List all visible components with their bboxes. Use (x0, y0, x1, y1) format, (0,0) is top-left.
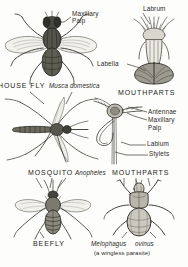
label-house-fly-name: HOUSE FLY (0, 82, 45, 89)
label-anopheles: Anopheles (75, 169, 106, 176)
label-wingless-note: (a wingless parasite) (94, 250, 150, 257)
label-mouthparts-mosquito: MOUTHPARTS (112, 169, 169, 176)
label-melophagus: Melophagus (91, 240, 126, 247)
label-beefly-name: BEEFLY (33, 240, 65, 247)
label-ovinus: ovinus (135, 240, 154, 247)
label-labium: Labium (147, 140, 169, 147)
label-mouthparts-fly: MOUTHPARTS (118, 89, 175, 96)
label-antennae: Antennae (148, 108, 177, 115)
label-mosquito-name: MOSQUITO (28, 169, 73, 176)
label-maxillary-palp-mosquito-line2: Palp (148, 124, 161, 131)
label-maxillary-palp-mosquito: Maxillary (148, 116, 175, 123)
label-musca-domestica: Musca domestica (49, 82, 100, 89)
label-labrum: Labrum (143, 5, 166, 12)
leader-lines (0, 0, 188, 267)
illustration-plate: Maxillary Palp Labrum Labella HOUSE FLY … (0, 0, 188, 267)
label-maxillary-palp-fly: Maxillary Palp (72, 10, 99, 25)
label-labella: Labella (97, 60, 119, 67)
label-stylets: Stylets (149, 150, 169, 157)
